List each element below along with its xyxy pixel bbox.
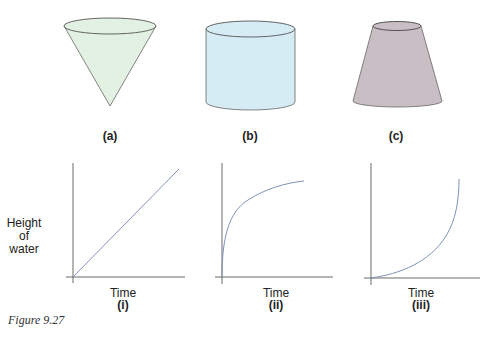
container-label-c: (c) — [389, 129, 404, 143]
ylabel-line2: of — [19, 229, 30, 243]
frustum-container — [353, 22, 442, 108]
graph-label-i: (i) — [117, 298, 128, 312]
figure-canvas: (a) (b) (c) Height of water Time (i) Tim… — [0, 0, 500, 342]
ylabel-line1: Height — [7, 216, 42, 230]
figure-caption: Figure 9.27 — [7, 313, 65, 327]
graph-label-ii: (ii) — [269, 298, 284, 312]
cone-container — [64, 18, 156, 106]
graph-label-iii: (iii) — [412, 298, 430, 312]
ylabel-line3: water — [8, 242, 38, 256]
graph-iii — [364, 163, 480, 285]
curve-linear — [73, 169, 179, 277]
graph-i — [66, 163, 185, 283]
curve-concave — [222, 181, 304, 277]
container-label-a: (a) — [103, 129, 118, 143]
cylinder-container — [206, 21, 295, 110]
container-label-b: (b) — [242, 129, 257, 143]
graph-ii — [215, 163, 333, 284]
curve-convex — [371, 179, 459, 278]
